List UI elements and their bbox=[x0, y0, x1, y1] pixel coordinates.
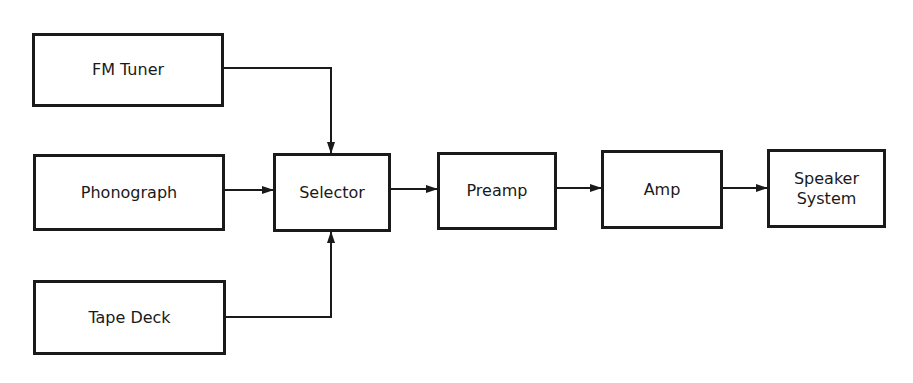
preamp-block: Preamp bbox=[437, 152, 557, 230]
phonograph-label: Phonograph bbox=[81, 183, 177, 203]
arrow-fm_tuner-to-selector bbox=[224, 68, 331, 153]
arrow-tape_deck-to-selector bbox=[226, 232, 331, 317]
selector-block: Selector bbox=[273, 153, 391, 232]
preamp-label: Preamp bbox=[467, 181, 528, 201]
selector-label: Selector bbox=[299, 183, 365, 203]
amp-label: Amp bbox=[644, 180, 681, 200]
audio-system-block-diagram: FM Tuner Phonograph Tape Deck Selector P… bbox=[0, 0, 913, 383]
phonograph-block: Phonograph bbox=[33, 154, 225, 231]
fm-tuner-block: FM Tuner bbox=[32, 33, 224, 107]
speaker-system-label: Speaker System bbox=[794, 169, 859, 209]
tape-deck-block: Tape Deck bbox=[33, 280, 226, 355]
amp-block: Amp bbox=[601, 150, 723, 229]
speaker-system-block: Speaker System bbox=[767, 149, 886, 228]
fm-tuner-label: FM Tuner bbox=[92, 60, 164, 80]
tape-deck-label: Tape Deck bbox=[88, 308, 170, 328]
